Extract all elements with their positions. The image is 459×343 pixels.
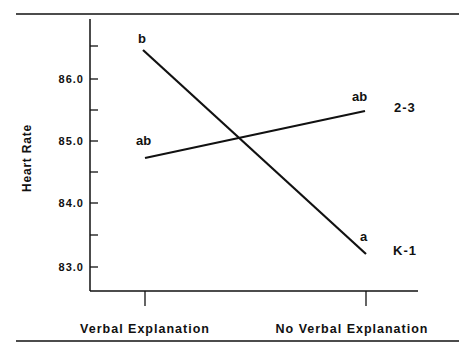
x-label-no-verbal: No Verbal Explanation [276, 322, 429, 336]
x-label-verbal: Verbal Explanation [80, 322, 210, 336]
series-line-2-3 [145, 111, 365, 158]
y-tick-label-84: 84.0 [59, 197, 84, 209]
annotation-k1-start: b [138, 31, 146, 46]
series-label-2-3: 2-3 [394, 100, 416, 115]
y-tick-label-86: 86.0 [59, 73, 84, 85]
annotation-2-3-end: ab [352, 89, 367, 104]
y-tick-label-83: 83.0 [59, 261, 84, 273]
line-chart: 86.0 85.0 84.0 83.0 Heart Rate Verbal Ex… [0, 0, 459, 343]
annotation-k1-end: a [360, 229, 368, 244]
series-label-k1: K-1 [393, 243, 417, 258]
y-axis: 86.0 85.0 84.0 83.0 Heart Rate [20, 19, 98, 291]
x-axis: Verbal Explanation No Verbal Explanation [80, 291, 428, 336]
y-axis-title: Heart Rate [20, 124, 34, 192]
y-tick-label-85: 85.0 [59, 135, 84, 147]
annotation-2-3-start: ab [136, 133, 151, 148]
